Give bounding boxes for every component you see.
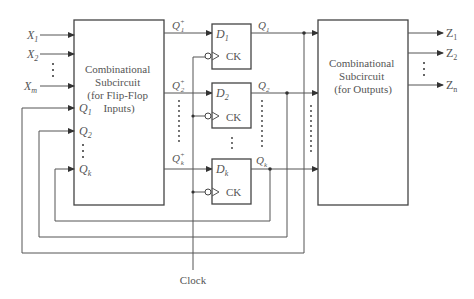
ffk-ck-label: CK xyxy=(226,186,241,198)
qk-junction-dot xyxy=(268,167,272,171)
output-logic-block xyxy=(318,20,408,205)
right-block-label-line-3: (for Outputs) xyxy=(334,83,392,96)
output-zn: Zn xyxy=(408,78,457,94)
clock-label: Clock xyxy=(180,274,207,286)
sequential-circuit-diagram: Combinational Subcircuit (for Flip-Flop … xyxy=(0,0,474,299)
ff2-inversion-bubble-icon xyxy=(205,113,211,119)
ff1-ck-label: CK xyxy=(226,50,241,62)
q-output-ellipsis xyxy=(261,100,263,147)
ffk-inversion-bubble-icon xyxy=(205,189,211,195)
q1-junction-dot xyxy=(302,31,306,35)
x1-sub: 1 xyxy=(34,35,38,44)
ffk-q-label: Qk xyxy=(256,154,268,169)
q2-junction-dot xyxy=(285,91,289,95)
svg-text:Xm: Xm xyxy=(23,79,37,95)
ff2-ck-label: CK xyxy=(226,111,241,123)
left-block-label-line-1: Combinational xyxy=(85,63,150,75)
zn-label: Zn xyxy=(446,78,457,94)
output-z1: Z1 xyxy=(408,26,457,42)
z-ellipsis xyxy=(423,62,425,76)
left-block-label-line-4: Inputs) xyxy=(103,102,135,115)
z2-label: Z2 xyxy=(446,46,457,62)
z1-label: Z1 xyxy=(446,26,457,42)
input-x2: X2 xyxy=(26,47,74,63)
ff2-q-label: Q2 xyxy=(258,79,270,94)
output-z2: Z2 xyxy=(408,46,457,62)
ff1-inversion-bubble-icon xyxy=(205,53,211,59)
right-block-label-line-2: Subcircuit xyxy=(339,70,384,82)
flip-flop-k: Dk CK Qk xyxy=(191,154,318,204)
q2-next-label: Q+2 xyxy=(172,78,185,94)
right-block-label-line-1: Combinational xyxy=(329,57,394,69)
flip-flop-ellipsis xyxy=(231,137,233,149)
x2-sub: 2 xyxy=(34,54,38,63)
svg-text:X1: X1 xyxy=(26,28,38,44)
flip-flop-2: D2 CK Q2 xyxy=(191,79,318,128)
q1-next-label: Q+1 xyxy=(172,18,185,34)
qk-next-label: Q+k xyxy=(172,151,185,167)
x-ellipsis xyxy=(52,63,54,77)
left-block-label-line-2: Subcircuit xyxy=(95,76,140,88)
ff1-q-label: Q1 xyxy=(258,19,269,34)
flip-flop-1: D1 CK Q1 xyxy=(193,19,318,69)
right-input-ellipsis xyxy=(310,105,312,152)
q-next-ellipsis xyxy=(178,100,180,142)
input-x1: X1 xyxy=(26,28,74,44)
right-block-label: Combinational Subcircuit (for Outputs) xyxy=(329,57,397,96)
svg-text:X2: X2 xyxy=(26,47,38,63)
input-xm: Xm xyxy=(23,79,74,95)
xm-sub: m xyxy=(31,86,37,95)
left-block-label-line-3: (for Flip-Flop xyxy=(87,89,148,102)
